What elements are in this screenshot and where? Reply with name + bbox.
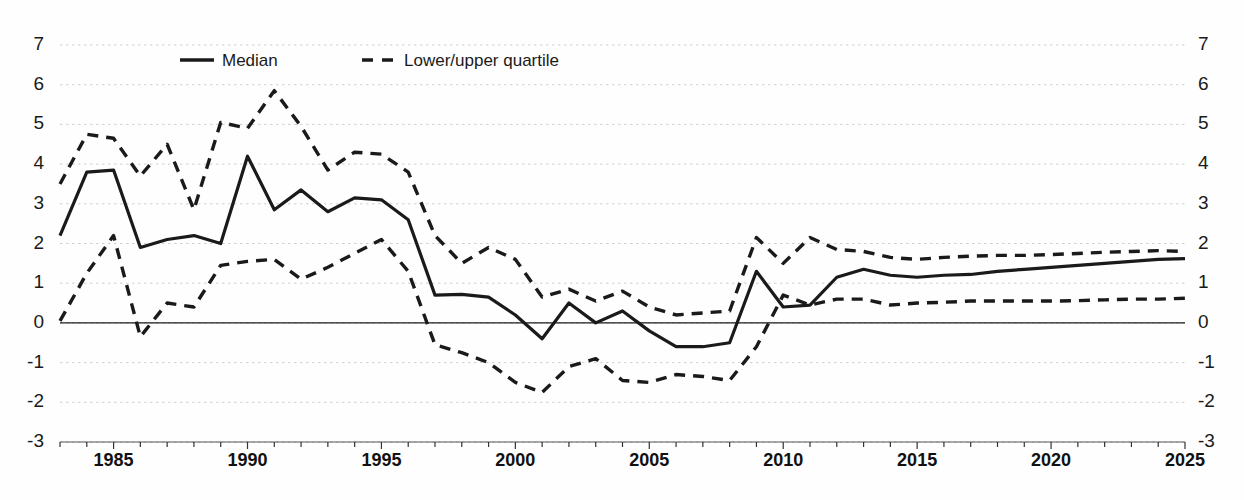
y-axis-label-right: -1 [1198,351,1232,373]
y-axis-label-right: -3 [1198,430,1232,452]
x-axis-label: 1990 [208,450,288,471]
y-axis-label-left: 5 [10,112,44,134]
y-axis-label-right: 4 [1198,152,1232,174]
x-axis-label: 2005 [609,450,689,471]
x-axis-label: 2025 [1145,450,1225,471]
series-line-quartile-lower [60,236,1185,393]
y-axis-label-left: -1 [10,351,44,373]
x-axis-label: 2020 [1011,450,1091,471]
legend-label-median: Median [222,51,278,71]
chart-container: 76543210-1-2-3 76543210-1-2-3 1985199019… [0,0,1244,500]
y-axis-label-right: 6 [1198,73,1232,95]
y-axis-label-left: 6 [10,73,44,95]
x-axis-label: 1985 [74,450,154,471]
y-axis-label-right: 5 [1198,112,1232,134]
y-axis-label-right: 2 [1198,232,1232,254]
y-axis-label-left: -2 [10,390,44,412]
y-axis-label-left: 0 [10,311,44,333]
y-axis-label-left: 4 [10,152,44,174]
series-line-median [60,156,1185,347]
y-axis-label-right: 7 [1198,33,1232,55]
y-axis-label-left: 3 [10,192,44,214]
legend-label-quartile: Lower/upper quartile [404,51,559,71]
y-axis-label-left: 7 [10,33,44,55]
y-axis-label-right: -2 [1198,390,1232,412]
y-axis-label-left: 1 [10,271,44,293]
x-axis-label: 2000 [475,450,555,471]
y-axis-label-left: 2 [10,232,44,254]
y-axis-label-right: 0 [1198,311,1232,333]
x-axis-label: 2010 [743,450,823,471]
y-axis-label-right: 3 [1198,192,1232,214]
y-axis-label-right: 1 [1198,271,1232,293]
line-chart-svg [0,0,1244,500]
x-axis-label: 1995 [341,450,421,471]
x-axis-label: 2015 [877,450,957,471]
y-axis-label-left: -3 [10,430,44,452]
